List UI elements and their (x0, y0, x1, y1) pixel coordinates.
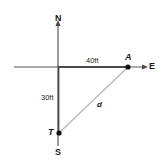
geometry-diagram: N S E A T 40ft 30ft d (0, 0, 162, 161)
axis-label-east: E (149, 62, 155, 71)
point-label-a: A (125, 53, 132, 62)
east-arrow-icon (142, 64, 148, 69)
axis-label-north: N (55, 14, 62, 23)
point-t-marker (56, 130, 61, 135)
diagram-canvas (0, 0, 162, 161)
point-a-marker (125, 64, 130, 69)
hypotenuse-segment (59, 67, 128, 133)
measure-label-horizontal: 40ft (86, 57, 99, 65)
measure-label-hypotenuse: d (97, 101, 102, 109)
axis-label-south: S (55, 148, 61, 157)
measure-label-vertical: 30ft (41, 94, 54, 102)
point-label-t: T (48, 128, 54, 137)
